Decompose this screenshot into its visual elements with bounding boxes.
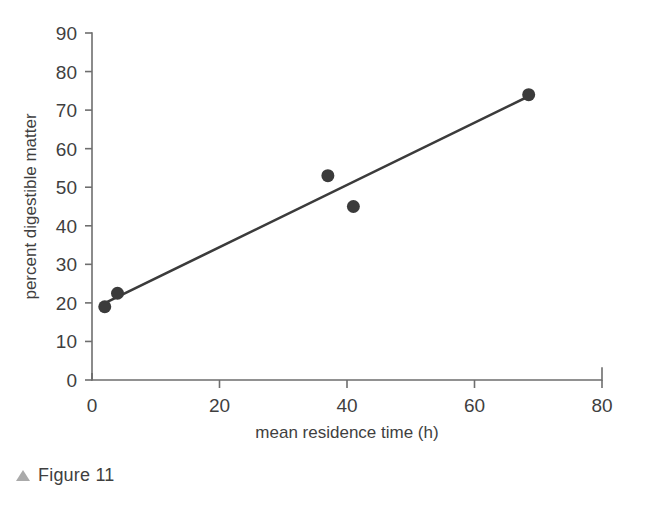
y-tick-label: 70 bbox=[56, 100, 77, 121]
x-tick-label: 40 bbox=[336, 395, 357, 416]
figure-container: percent digestible matter mean residence… bbox=[0, 0, 667, 507]
data-point bbox=[522, 88, 535, 101]
figure-caption: Figure 11 bbox=[16, 465, 115, 486]
triangle-up-icon bbox=[16, 470, 30, 481]
y-axis-title: percent digestible matter bbox=[21, 113, 40, 299]
x-tick-label: 80 bbox=[591, 395, 612, 416]
figure-caption-text: Figure 11 bbox=[38, 465, 115, 486]
x-tick-label: 20 bbox=[209, 395, 230, 416]
x-tick-label: 60 bbox=[464, 395, 485, 416]
data-point bbox=[111, 287, 124, 300]
trend-line bbox=[102, 96, 528, 304]
y-tick-label: 60 bbox=[56, 139, 77, 160]
data-point bbox=[321, 169, 334, 182]
y-axis-tick-marks bbox=[85, 33, 92, 380]
y-tick-label: 20 bbox=[56, 293, 77, 314]
scatter-chart: percent digestible matter mean residence… bbox=[0, 0, 667, 460]
y-tick-label: 40 bbox=[56, 216, 77, 237]
data-point bbox=[98, 300, 111, 313]
data-point bbox=[347, 200, 360, 213]
y-tick-label: 90 bbox=[56, 23, 77, 44]
y-tick-label: 10 bbox=[56, 331, 77, 352]
x-tick-label: 0 bbox=[87, 395, 98, 416]
y-tick-label: 0 bbox=[66, 370, 77, 391]
x-axis-title: mean residence time (h) bbox=[255, 423, 438, 442]
y-tick-label: 30 bbox=[56, 254, 77, 275]
y-tick-label: 50 bbox=[56, 177, 77, 198]
x-axis-line bbox=[92, 368, 602, 380]
y-axis-tick-labels: 0102030405060708090 bbox=[56, 23, 77, 391]
x-axis-tick-labels: 020406080 bbox=[87, 395, 613, 416]
y-tick-label: 80 bbox=[56, 62, 77, 83]
